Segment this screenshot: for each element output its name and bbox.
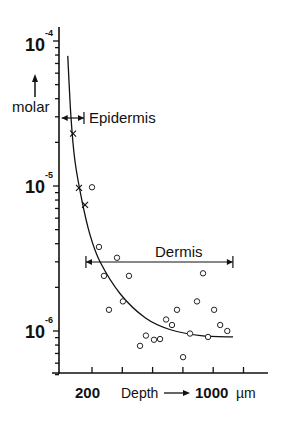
y-tick-label-exp: -5 (45, 170, 53, 180)
circle-point (106, 307, 111, 312)
circle-point (137, 343, 142, 348)
x-label-arrow-icon (164, 390, 190, 396)
x-tick-label-1000: 1000 (195, 384, 228, 401)
y-tick-label-1e-6: 10 -6 (25, 315, 53, 342)
epidermis-range-left-arrowhead (62, 115, 68, 121)
y-ticks (53, 41, 59, 375)
circle-point (89, 185, 94, 190)
annotations (62, 112, 233, 268)
x-axis-label: Depth (121, 385, 158, 401)
x-ticks (92, 367, 244, 373)
y-tick-label-1e-4: 10 -4 (25, 28, 53, 55)
circle-point (211, 307, 216, 312)
cross-point (70, 131, 76, 137)
circle-point (151, 337, 156, 342)
circle-point (114, 255, 119, 260)
dermis-range-right-arrowhead (227, 259, 233, 265)
circle-point (143, 333, 148, 338)
circle-point (126, 273, 131, 278)
circle-point (169, 322, 174, 327)
circle-point (163, 317, 168, 322)
y-tick-label-1e-5: 10 -5 (25, 170, 53, 197)
epidermis-range (62, 112, 84, 124)
circle-point (187, 331, 192, 336)
y-tick-label-base: 10 (25, 177, 45, 197)
x-tick-label-200: 200 (75, 384, 100, 401)
circle-point (217, 322, 222, 327)
y-label-arrow-icon (32, 74, 38, 97)
y-tick-label-exp: -6 (45, 315, 53, 325)
circle-point (194, 299, 199, 304)
circle-point (157, 336, 162, 341)
y-tick-label-base: 10 (25, 35, 45, 55)
circle-point (96, 244, 101, 249)
x-axis-unit: µm (236, 385, 256, 401)
y-tick-label-exp: -4 (45, 28, 53, 38)
circle-point (225, 328, 230, 333)
points-layer (70, 131, 230, 360)
circle-point (200, 271, 205, 276)
chart: 10 -4 10 -5 10 -6 molar 200 1000 Depth µ… (0, 0, 281, 422)
fitted-curve (68, 56, 233, 337)
circle-point (101, 273, 106, 278)
y-tick-label-base: 10 (25, 322, 45, 342)
circle-point (120, 299, 125, 304)
fitted-curve-layer (68, 56, 233, 337)
dermis-label: Dermis (155, 243, 203, 260)
epidermis-range-right-arrowhead (78, 115, 84, 121)
epidermis-label: Epidermis (89, 109, 156, 126)
circle-point (174, 307, 179, 312)
circle-point (205, 334, 210, 339)
dermis-range-left-arrowhead (86, 259, 92, 265)
y-axis-label: molar (12, 98, 50, 115)
circle-point (180, 354, 185, 359)
